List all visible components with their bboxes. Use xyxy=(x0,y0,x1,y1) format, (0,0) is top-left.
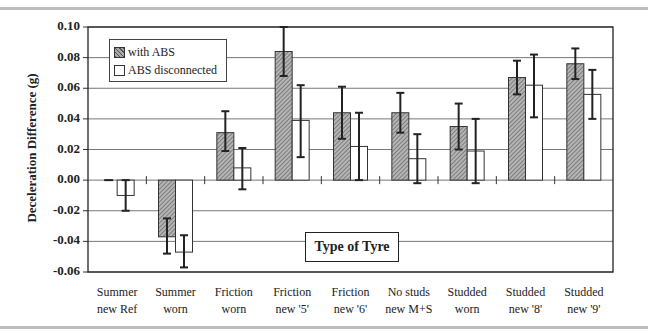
legend-item-with-abs: with ABS xyxy=(114,45,175,60)
x-category-label: Studdednew '9' xyxy=(552,284,616,318)
x-axis-title-box: Type of Tyre xyxy=(305,232,399,262)
y-tick-label: -0.02 xyxy=(30,202,80,218)
hatched-swatch-icon xyxy=(114,47,125,58)
x-category-label: Frictionnew '5' xyxy=(260,284,324,318)
y-tick-label: -0.06 xyxy=(30,263,80,279)
legend-label: ABS disconnected xyxy=(128,63,217,78)
x-category-label: Summernew Ref xyxy=(85,284,149,318)
y-tick-label: 0.04 xyxy=(30,110,80,126)
y-tick-label: -0.04 xyxy=(30,232,80,248)
y-tick-label: 0.02 xyxy=(30,141,80,157)
y-tick-label: 0.00 xyxy=(30,171,80,187)
x-category-label: No studsnew M+S xyxy=(377,284,441,318)
y-tick-label: 0.06 xyxy=(30,79,80,95)
bar-with-abs xyxy=(567,64,584,180)
open-swatch-icon xyxy=(114,65,125,76)
legend-item-abs-disconnected: ABS disconnected xyxy=(114,63,217,78)
x-category-label: Studdednew '8' xyxy=(494,284,558,318)
legend: with ABS ABS disconnected xyxy=(109,39,227,82)
y-tick-label: 0.08 xyxy=(30,49,80,65)
x-category-label: Frictionnew '6' xyxy=(319,284,383,318)
x-category-label: Frictionworn xyxy=(202,284,266,318)
legend-label: with ABS xyxy=(128,45,175,60)
x-category-label: Studdedworn xyxy=(435,284,499,318)
y-tick-label: 0.10 xyxy=(30,18,80,34)
x-category-label: Summerworn xyxy=(144,284,208,318)
